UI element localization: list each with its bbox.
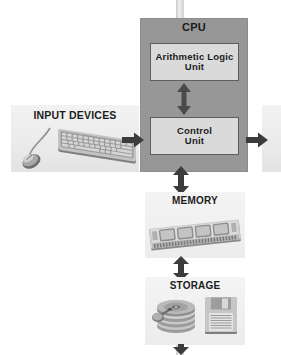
cpu-to-output-arrow	[246, 132, 268, 148]
floppy-disk-icon	[203, 296, 239, 336]
input-to-cpu-arrow	[122, 132, 144, 148]
storage-label: STORAGE	[145, 281, 245, 292]
memory-label: MEMORY	[145, 196, 245, 207]
diagram-canvas: CPU Arithmetic Logic Unit Control Unit I…	[0, 0, 281, 355]
alu-to-control-unit-arrow	[176, 83, 192, 115]
cpu-to-memory-arrow	[172, 166, 190, 195]
control-unit-label: Control Unit	[177, 126, 212, 146]
bottom-arrow-partial	[172, 344, 190, 355]
mouse-icon	[19, 126, 59, 170]
input-devices-label: INPUT DEVICES	[11, 110, 139, 121]
arithmetic-logic-unit-block: Arithmetic Logic Unit	[150, 43, 239, 81]
ram-module-icon	[148, 216, 242, 254]
top-feed-bar	[176, 0, 184, 18]
hard-disk-icon	[150, 296, 198, 338]
control-unit-block: Control Unit	[150, 117, 239, 155]
arithmetic-logic-unit-label: Arithmetic Logic Unit	[155, 52, 233, 72]
cpu-label: CPU	[140, 22, 248, 34]
